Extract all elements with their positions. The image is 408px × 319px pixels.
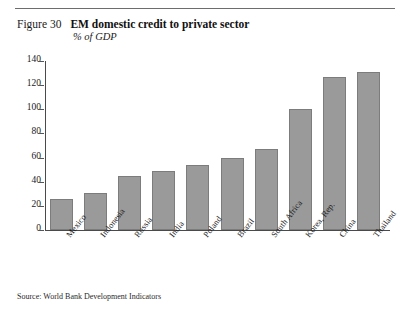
bar	[221, 158, 244, 230]
bar	[186, 165, 209, 230]
y-axis-tick-mark	[38, 230, 44, 231]
figure-page: Figure 30 EM domestic credit to private …	[0, 0, 408, 319]
y-axis-tick-mark	[38, 182, 44, 183]
x-axis-labels: MexicoIndonesiaRussiaIndiaPolandBrazilSo…	[47, 233, 392, 293]
y-axis-tick-label: 140	[27, 54, 41, 64]
y-axis-tick-mark	[38, 61, 44, 62]
y-axis-line	[45, 61, 46, 231]
bar	[357, 72, 380, 230]
bar	[255, 149, 278, 230]
y-axis-tick-mark	[38, 85, 44, 86]
y-axis-tick-label: 100	[27, 102, 41, 112]
y-axis-tick-label: 120	[27, 78, 41, 88]
y-axis-tick-label: 20	[32, 199, 42, 209]
source-note: Source: World Bank Development Indicator…	[17, 292, 161, 301]
y-axis-tick-label: 80	[32, 126, 42, 136]
bar	[152, 171, 175, 230]
bar-series	[47, 61, 388, 230]
y-axis-tick-mark	[38, 158, 44, 159]
y-axis-tick-mark	[38, 109, 44, 110]
y-axis-tick-mark	[38, 206, 44, 207]
bar	[118, 176, 141, 230]
y-axis-tick-label: 40	[32, 175, 42, 185]
bar-chart: 020406080100120140 MexicoIndonesiaRussia…	[0, 0, 408, 319]
y-axis-tick-mark	[38, 133, 44, 134]
y-axis-tick-label: 60	[32, 151, 42, 161]
y-axis-tick-label: 0	[36, 223, 41, 233]
